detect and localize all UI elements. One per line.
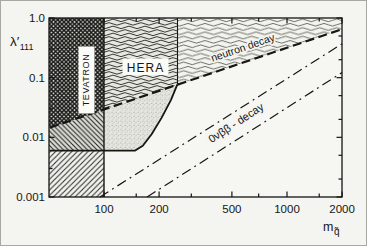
- exclusion-plot-figure: 100200500100020001.00.10.010.001 λ′111 m…: [0, 0, 367, 246]
- region-slash-hatch: [49, 151, 104, 197]
- y-axis-title: λ′111: [10, 34, 33, 52]
- x-tick-label: 500: [222, 203, 241, 215]
- y-tick-label: 0.001: [16, 191, 45, 203]
- x-tick-label: 100: [94, 203, 113, 215]
- tevatron-label: TEVATRON: [81, 54, 91, 106]
- y-tick-label: 1.0: [29, 12, 45, 24]
- y-tick-label: 0.1: [29, 72, 45, 84]
- y-tick-label: 0.01: [23, 131, 45, 143]
- x-tick-label: 2000: [329, 203, 355, 215]
- hera-label: HERA: [127, 61, 164, 75]
- x-tick-label: 1000: [274, 203, 300, 215]
- x-tick-label: 200: [149, 203, 168, 215]
- plot-canvas: 100200500100020001.00.10.010.001 λ′111 m…: [1, 1, 367, 246]
- x-axis-title: mq̃: [323, 220, 339, 237]
